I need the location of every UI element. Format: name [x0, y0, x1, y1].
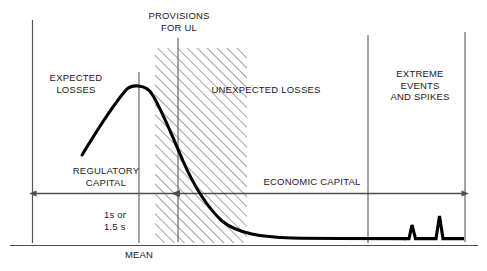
diagram-canvas — [0, 0, 487, 271]
label-extreme-events-and-spikes: EXTREME EVENTS AND SPIKES — [377, 68, 463, 103]
loss-distribution-diagram: EXPECTED LOSSES PROVISIONS FOR UL UNEXPE… — [0, 0, 487, 271]
label-unexpected-losses: UNEXPECTED LOSSES — [196, 84, 336, 96]
label-expected-losses: EXPECTED LOSSES — [34, 72, 118, 95]
hatched-band-provisions-for-ul — [155, 48, 247, 243]
extreme-event-spikes — [404, 216, 464, 239]
label-provisions-for-ul: PROVISIONS FOR UL — [133, 10, 225, 33]
label-regulatory-capital: REGULATORY CAPITAL — [50, 165, 162, 188]
label-confidence-window: 1s or 1.5 s — [104, 209, 144, 232]
label-mean: MEAN — [106, 249, 172, 261]
label-economic-capital: ECONOMIC CAPITAL — [242, 176, 382, 188]
